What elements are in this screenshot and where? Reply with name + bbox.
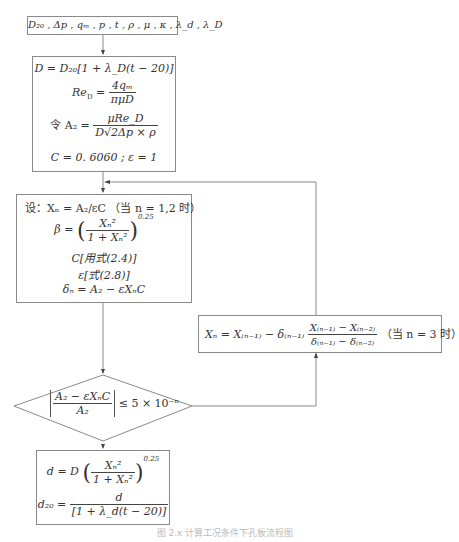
figure-caption: 图 2.x 计算工况条件下孔板流程图 bbox=[0, 526, 450, 539]
orifice-diameter-formula: d = D (Xₙ²1 + Xₙ²)0.25 bbox=[37, 455, 169, 486]
iteration-box: 设：Xₙ = A₂/εC （当 n = 1,2 时） β = (Xₙ²1 + X… bbox=[16, 194, 192, 303]
input-parameters-text: D₂₀ , Δp , qₘ , p , t , ρ , μ , κ , λ_d … bbox=[28, 19, 177, 30]
initial-constants: C = 0. 6060 ; ε = 1 bbox=[33, 151, 175, 164]
reynolds-formula: ReD = 4qₘπμD bbox=[33, 79, 175, 106]
result-box: d = D (Xₙ²1 + Xₙ²)0.25 d₂₀ = d[1 + λ_d(t… bbox=[36, 450, 170, 525]
secant-update-formula: Xₙ = X₍ₙ₋₁₎ − δ₍ₙ₋₁₎ X₍ₙ₋₁₎ − X₍ₙ₋₂₎δ₍ₙ₋… bbox=[205, 321, 459, 348]
epsilon-formula-ref: ε[式(2.8)] bbox=[17, 266, 191, 282]
input-parameters-box: D₂₀ , Δp , qₘ , p , t , ρ , μ , κ , λ_d … bbox=[27, 16, 178, 35]
d20-formula: d₂₀ = d[1 + λ_d(t − 20)] bbox=[37, 491, 169, 518]
a2-formula: 令 A₂ = μRe_DD√2Δp × ρ bbox=[33, 112, 175, 139]
convergence-criterion: A₂ − εXₙCA₂ ≤ 5 × 10⁻ⁿ bbox=[50, 390, 179, 417]
update-xn-box: Xₙ = X₍ₙ₋₁₎ − δ₍ₙ₋₁₎ X₍ₙ₋₁₎ − X₍ₙ₋₂₎δ₍ₙ₋… bbox=[198, 315, 442, 353]
diameter-formula: D = D₂₀[1 + λ_D(t − 20)] bbox=[33, 62, 175, 75]
delta-formula: δₙ = A₂ − εXₙC bbox=[17, 283, 191, 296]
beta-formula: β = (Xₙ²1 + Xₙ²)0.25 bbox=[17, 213, 191, 244]
initialization-box: D = D₂₀[1 + λ_D(t − 20)] ReD = 4qₘπμD 令 … bbox=[32, 56, 176, 172]
c-formula-ref: C[用式(2.4)] bbox=[17, 249, 191, 265]
